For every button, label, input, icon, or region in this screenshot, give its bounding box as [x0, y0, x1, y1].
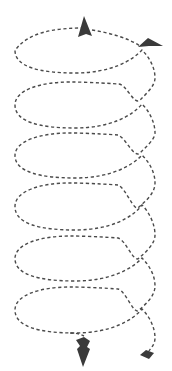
end-diamond-icon	[140, 350, 154, 359]
spiral-diagram	[0, 0, 172, 371]
bottom-arrowhead-icon	[76, 337, 90, 367]
spiral-path	[15, 28, 155, 351]
spiral-svg	[0, 0, 172, 371]
spiral-loops	[15, 28, 155, 351]
right-arrowhead-icon	[138, 38, 163, 47]
spiral-start-segment	[92, 30, 140, 46]
top-arrowhead-icon	[78, 16, 92, 37]
bottom-lead-segment	[70, 333, 84, 336]
markers	[76, 16, 163, 367]
